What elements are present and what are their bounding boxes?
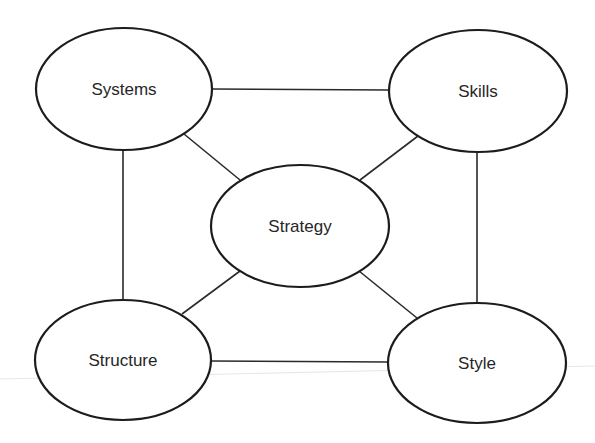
node-systems-label: Systems bbox=[91, 80, 156, 99]
edge-style-strategy bbox=[359, 271, 417, 318]
node-skills: Skills bbox=[389, 30, 567, 152]
node-structure-label: Structure bbox=[89, 351, 158, 370]
node-structure: Structure bbox=[35, 300, 211, 420]
node-strategy: Strategy bbox=[211, 165, 389, 287]
node-skills-label: Skills bbox=[458, 82, 498, 101]
node-style: Style bbox=[388, 303, 566, 423]
node-style-label: Style bbox=[458, 354, 496, 373]
edge-structure-style bbox=[211, 361, 388, 362]
edge-skills-strategy bbox=[360, 136, 418, 180]
node-systems: Systems bbox=[36, 28, 212, 150]
edge-structure-strategy bbox=[182, 271, 240, 314]
edge-systems-strategy bbox=[184, 134, 240, 180]
node-strategy-label: Strategy bbox=[268, 217, 332, 236]
edge-systems-skills bbox=[212, 89, 389, 90]
diagram-canvas: Systems Skills Strategy Structure Style bbox=[0, 0, 595, 443]
